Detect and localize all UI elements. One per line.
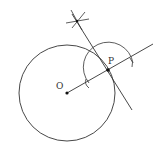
label-o: O [56, 82, 63, 91]
label-p: P [108, 57, 114, 66]
point-p-dot [106, 68, 110, 72]
line-op-extended [67, 44, 153, 93]
tangent-construction-diagram [0, 0, 165, 150]
point-o-dot [65, 91, 68, 94]
point-asterisk-dot [76, 20, 78, 22]
